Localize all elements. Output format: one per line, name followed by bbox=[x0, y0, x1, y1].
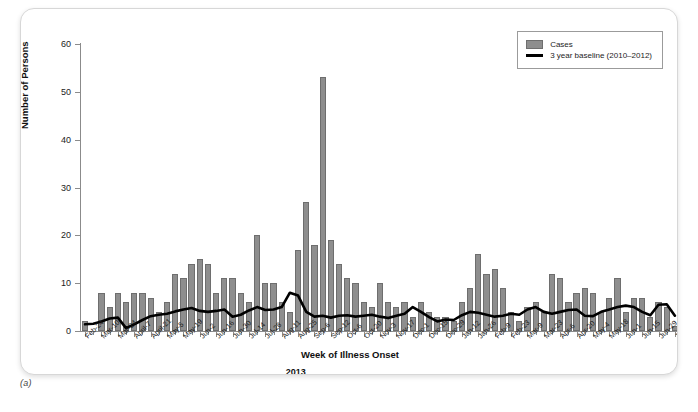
baseline-series-line bbox=[81, 44, 678, 331]
y-axis-tick-label: 30 bbox=[43, 183, 71, 193]
figure-root: 0102030405060 Number of Persons Feb-24Ma… bbox=[0, 0, 698, 412]
chart-card: 0102030405060 Number of Persons Feb-24Ma… bbox=[20, 8, 678, 375]
x-axis-title: Week of Illness Onset bbox=[21, 349, 678, 360]
y-axis-title: Number of Persons bbox=[20, 41, 30, 129]
figure-caption: (a) bbox=[20, 378, 32, 388]
y-axis-tick-label: 10 bbox=[43, 278, 71, 288]
legend-item-baseline: 3 year baseline (2010–2012) bbox=[526, 51, 652, 60]
chart-legend: Cases 3 year baseline (2010–2012) bbox=[517, 31, 663, 69]
line-swatch-icon bbox=[526, 54, 543, 57]
y-axis-tick-label: 50 bbox=[43, 87, 71, 97]
legend-label-cases: Cases bbox=[550, 40, 573, 49]
legend-label-baseline: 3 year baseline (2010–2012) bbox=[550, 51, 652, 60]
y-axis-tick-label: 0 bbox=[43, 326, 71, 336]
y-axis-tick-label: 40 bbox=[43, 135, 71, 145]
bar-swatch-icon bbox=[526, 40, 543, 49]
legend-item-cases: Cases bbox=[526, 40, 652, 49]
y-axis-tick-label: 60 bbox=[43, 39, 71, 49]
plot-area bbox=[81, 44, 678, 331]
y-axis-tick-label: 20 bbox=[43, 230, 71, 240]
year-label: 2013 bbox=[286, 367, 306, 375]
